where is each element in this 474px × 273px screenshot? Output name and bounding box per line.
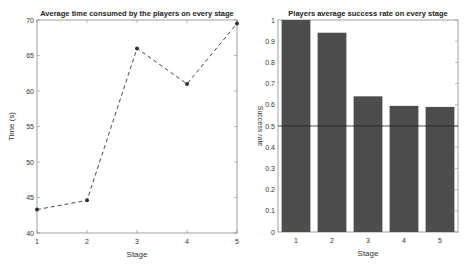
bar <box>354 96 383 232</box>
y-tick-label: 0.2 <box>265 186 275 193</box>
bar <box>390 106 419 232</box>
y-tick-label: 60 <box>26 88 34 95</box>
y-axis-label: Success rate <box>257 106 264 147</box>
charts-figure: 4045505560657012345Average time consumed… <box>0 0 474 273</box>
x-tick-label: 2 <box>85 238 89 245</box>
y-tick-label: 45 <box>26 194 34 201</box>
x-axis-label: Stage <box>358 249 379 258</box>
x-tick-label: 3 <box>135 238 139 245</box>
x-tick-label: 5 <box>235 238 239 245</box>
y-tick-label: 50 <box>26 159 34 166</box>
data-point-marker <box>135 46 139 50</box>
y-axis-label: Time (s) <box>7 112 16 141</box>
y-tick-label: 0.5 <box>265 123 275 130</box>
x-tick-label: 1 <box>35 238 39 245</box>
x-tick-label: 2 <box>330 237 334 244</box>
y-tick-label: 0.9 <box>265 38 275 45</box>
y-tick-label: 1 <box>271 17 275 24</box>
y-tick-label: 0.1 <box>265 207 275 214</box>
y-tick-label: 65 <box>26 52 34 59</box>
y-tick-label: 0 <box>271 229 275 236</box>
data-point-marker <box>185 82 189 86</box>
chart-title: Average time consumed by the players on … <box>40 9 234 18</box>
x-tick-label: 5 <box>438 237 442 244</box>
x-axis-label: Stage <box>127 250 148 259</box>
x-tick-label: 4 <box>402 237 406 244</box>
line-chart: 4045505560657012345Average time consumed… <box>7 9 239 259</box>
y-tick-label: 0.6 <box>265 101 275 108</box>
data-point-marker <box>35 208 39 212</box>
bar-chart: 1234500.10.20.30.40.50.60.70.80.91Player… <box>257 9 458 258</box>
y-tick-label: 55 <box>26 123 34 130</box>
plot-area <box>37 20 237 233</box>
y-tick-label: 0.4 <box>265 144 275 151</box>
y-tick-label: 70 <box>26 17 34 24</box>
x-tick-label: 3 <box>366 237 370 244</box>
bar <box>318 33 347 232</box>
y-tick-label: 40 <box>26 230 34 237</box>
y-tick-label: 0.3 <box>265 165 275 172</box>
x-tick-label: 1 <box>294 237 298 244</box>
y-tick-label: 0.8 <box>265 59 275 66</box>
data-point-marker <box>235 22 239 26</box>
data-point-marker <box>85 198 89 202</box>
x-tick-label: 4 <box>185 238 189 245</box>
y-tick-label: 0.7 <box>265 80 275 87</box>
chart-title: Players average success rate on every st… <box>288 9 447 18</box>
